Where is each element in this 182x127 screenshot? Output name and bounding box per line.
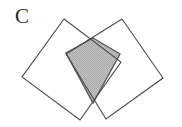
figure-label: C [15,4,29,28]
figure-container: C [0,0,182,127]
intersection-kite-shape [66,38,120,103]
